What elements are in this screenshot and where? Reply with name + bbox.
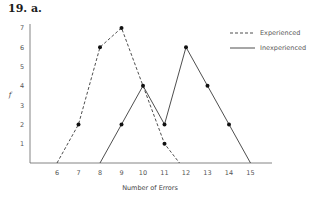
series-experienced-line xyxy=(57,28,180,163)
x-tick-label: 14 xyxy=(225,169,233,177)
y-tick-label: 5 xyxy=(20,63,24,71)
x-tick-label: 9 xyxy=(119,169,123,177)
data-point-marker xyxy=(184,45,188,49)
y-tick-label: 2 xyxy=(20,121,24,129)
frequency-polygon-chart: 12345676789101112131415 ExperiencedInexp… xyxy=(0,0,314,200)
data-point-marker xyxy=(141,84,145,88)
y-tick-label: 6 xyxy=(20,44,24,52)
x-tick-label: 7 xyxy=(76,169,80,177)
x-axis-label: Number of Errors xyxy=(122,184,178,192)
legend: ExperiencedInexperienced xyxy=(230,29,306,52)
y-axis-label: f xyxy=(8,91,13,99)
x-tick-label: 6 xyxy=(55,169,59,177)
series-lines xyxy=(57,26,251,163)
data-point-marker xyxy=(77,122,81,126)
x-tick-label: 15 xyxy=(246,169,254,177)
data-point-marker xyxy=(206,84,210,88)
data-point-marker xyxy=(227,122,231,126)
axes: 12345676789101112131415 xyxy=(20,24,272,177)
x-tick-label: 8 xyxy=(98,169,102,177)
legend-label-experienced: Experienced xyxy=(260,29,300,37)
y-tick-label: 7 xyxy=(20,24,24,32)
x-tick-label: 13 xyxy=(203,169,211,177)
x-tick-label: 12 xyxy=(182,169,190,177)
series-inexperienced-line xyxy=(100,47,251,163)
x-tick-label: 11 xyxy=(160,169,168,177)
y-tick-label: 4 xyxy=(20,82,24,90)
y-tick-label: 1 xyxy=(20,140,24,148)
data-point-marker xyxy=(120,26,124,30)
data-point-marker xyxy=(98,45,102,49)
data-point-marker xyxy=(120,122,124,126)
y-tick-label: 3 xyxy=(20,102,24,110)
data-point-marker xyxy=(163,122,167,126)
legend-label-inexperienced: Inexperienced xyxy=(260,44,306,52)
data-point-marker xyxy=(163,142,167,146)
x-tick-label: 10 xyxy=(139,169,147,177)
